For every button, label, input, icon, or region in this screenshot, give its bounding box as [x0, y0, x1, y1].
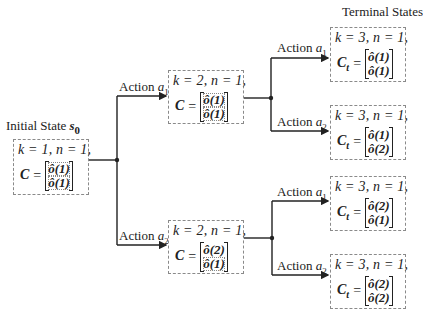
config-matrix: ô(1) ô(1) — [365, 50, 393, 78]
matrix-cell: ô(2) — [368, 291, 390, 305]
config-equation: Ct = ô(1) ô(1) — [337, 50, 393, 78]
state-node-level2: k = 2, n = 1, C = ô(2) ô(1) — [168, 220, 244, 274]
matrix-cell: ô(1) — [203, 257, 225, 271]
terminal-states-heading: Terminal States — [342, 4, 423, 20]
action-label: Action a1 — [119, 79, 169, 97]
matrix-cell: ô(1) — [368, 128, 390, 142]
action-label: Action a2 — [277, 114, 327, 132]
state-params: k = 3, n = 1, — [335, 30, 408, 46]
config-variable: C — [175, 248, 184, 266]
config-variable: Ct — [337, 282, 349, 300]
matrix-cell: ô(1) — [203, 107, 225, 121]
state-node-level2: k = 2, n = 1, C = ô(1) ô(1) — [168, 70, 244, 124]
config-variable: Ct — [337, 133, 349, 151]
matrix-cell: ô(1) — [48, 176, 70, 190]
action-label: Action a2 — [119, 228, 169, 246]
matrix-cell: ô(1) — [203, 93, 225, 107]
action-label: Action a1 — [277, 40, 327, 58]
initial-state-node: k = 1, n = 1, C = ô(1) ô(1) — [13, 139, 89, 195]
initial-state-heading: Initial State s0 — [6, 118, 80, 136]
config-variable: Ct — [337, 204, 349, 222]
config-equation: Ct = ô(2) ô(2) — [337, 277, 393, 305]
config-variable: C — [175, 98, 184, 116]
config-matrix: ô(1) ô(1) — [200, 93, 228, 121]
action-label: Action a1 — [277, 184, 327, 202]
config-equation: C = ô(1) ô(1) — [20, 162, 73, 190]
state-params: k = 3, n = 1, — [335, 257, 408, 273]
terminal-state-node: k = 3, n = 1, Ct = ô(2) ô(2) — [330, 254, 406, 309]
config-equation: Ct = ô(2) ô(1) — [337, 199, 393, 227]
action-label: Action a2 — [277, 258, 327, 276]
state-params: k = 3, n = 1, — [335, 108, 408, 124]
terminal-state-node: k = 3, n = 1, Ct = ô(1) ô(2) — [330, 105, 406, 160]
config-matrix: ô(1) ô(2) — [365, 128, 393, 156]
matrix-cell: ô(1) — [368, 50, 390, 64]
matrix-cell: ô(2) — [368, 277, 390, 291]
matrix-cell: ô(2) — [368, 142, 390, 156]
config-equation: C = ô(2) ô(1) — [175, 243, 228, 271]
config-variable: Ct — [337, 55, 349, 73]
config-variable: C — [20, 167, 29, 185]
state-params: k = 2, n = 1, — [173, 73, 246, 89]
initial-state-title-text: Initial State — [6, 118, 70, 133]
matrix-cell: ô(1) — [48, 162, 70, 176]
state-params: k = 2, n = 1, — [173, 223, 246, 239]
matrix-cell: ô(1) — [368, 64, 390, 78]
matrix-cell: ô(2) — [203, 243, 225, 257]
matrix-cell: ô(1) — [368, 213, 390, 227]
config-equation: C = ô(1) ô(1) — [175, 93, 228, 121]
terminal-state-node: k = 3, n = 1, Ct = ô(2) ô(1) — [330, 176, 406, 231]
config-matrix: ô(2) ô(1) — [200, 243, 228, 271]
config-matrix: ô(2) ô(1) — [365, 199, 393, 227]
state-params: k = 1, n = 1, — [18, 142, 91, 158]
config-matrix: ô(2) ô(2) — [365, 277, 393, 305]
state-params: k = 3, n = 1, — [335, 179, 408, 195]
matrix-cell: ô(2) — [368, 199, 390, 213]
config-equation: Ct = ô(1) ô(2) — [337, 128, 393, 156]
terminal-state-node: k = 3, n = 1, Ct = ô(1) ô(1) — [330, 27, 406, 82]
initial-state-subscript: 0 — [75, 124, 80, 136]
config-matrix: ô(1) ô(1) — [45, 162, 73, 190]
